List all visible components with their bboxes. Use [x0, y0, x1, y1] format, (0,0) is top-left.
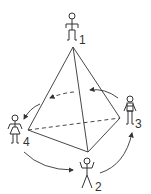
- figure-2-icon: [80, 158, 94, 188]
- arrow-2-to-3: [100, 133, 132, 173]
- rotation-arrows: [24, 90, 132, 173]
- figure-4-icon: [8, 115, 22, 143]
- vertex-label-2: 2: [95, 180, 102, 194]
- tetrahedron: [28, 47, 120, 152]
- tetrahedron-diagram: 1 3 4 2: [0, 0, 151, 194]
- figure-1-icon: [66, 13, 78, 40]
- vertex-label-1: 1: [79, 33, 86, 47]
- arrow-top-to-left: [50, 92, 74, 98]
- vertex-label-3: 3: [135, 117, 142, 131]
- vertex-label-4: 4: [23, 135, 30, 149]
- arrow-4-to-2: [24, 152, 73, 170]
